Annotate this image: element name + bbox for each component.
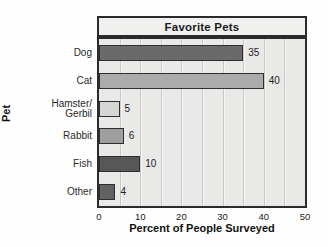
bar-other: [99, 184, 115, 200]
bar-dog: [99, 45, 243, 61]
x-tick-40: 40: [259, 211, 270, 222]
gridline: [243, 39, 244, 206]
x-tick-30: 30: [217, 211, 228, 222]
value-label-rabbit: 6: [129, 128, 135, 144]
category-label-other: Other: [20, 187, 92, 198]
value-label-dog: 35: [248, 45, 259, 61]
bar-fish: [99, 156, 140, 172]
gridline: [140, 39, 141, 206]
chart-title: Favorite Pets: [165, 21, 240, 33]
value-label-other: 4: [120, 184, 126, 200]
category-label-dog: Dog: [20, 48, 92, 59]
bar-rabbit: [99, 128, 124, 144]
x-axis-title: Percent of People Surveyed: [97, 222, 307, 234]
gridline: [284, 39, 285, 206]
y-axis-title: Pet: [0, 105, 12, 122]
chart-canvas: Favorite Pets 35 40 5 6 10 4 Dog Cat Ham…: [0, 0, 328, 247]
value-label-cat: 40: [269, 73, 280, 89]
gridline: [202, 39, 203, 206]
gridline: [161, 39, 162, 206]
gridline: [120, 39, 121, 206]
x-tick-20: 20: [176, 211, 187, 222]
category-label-fish: Fish: [20, 159, 92, 170]
x-tick-0: 0: [96, 211, 101, 222]
category-label-rabbit: Rabbit: [20, 131, 92, 142]
plot-area: 35 40 5 6 10 4: [97, 37, 307, 208]
x-tick-50: 50: [300, 211, 311, 222]
bar-hamster-gerbil: [99, 101, 120, 117]
x-tick-10: 10: [135, 211, 146, 222]
gridline: [223, 39, 224, 206]
value-label-hamster-gerbil: 5: [125, 101, 131, 117]
category-label-cat: Cat: [20, 76, 92, 87]
category-label-hamster-gerbil: Hamster/ Gerbil: [20, 98, 92, 119]
chart-title-box: Favorite Pets: [97, 16, 307, 37]
gridline: [181, 39, 182, 206]
value-label-fish: 10: [145, 156, 156, 172]
gridline: [264, 39, 265, 206]
bar-cat: [99, 73, 264, 89]
